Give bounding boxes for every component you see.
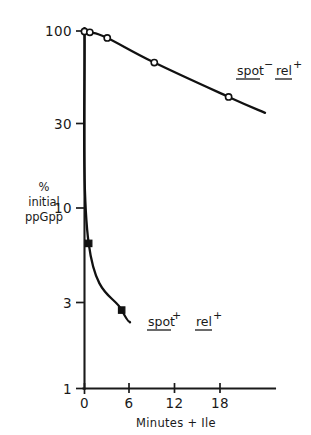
- data-point-open: [87, 29, 93, 35]
- curve-spot-plus-rel-plus: [84, 32, 130, 323]
- data-point-open: [226, 94, 232, 100]
- x-tick-label-12: 12: [166, 395, 184, 411]
- x-tick-label-0: 0: [80, 395, 89, 411]
- annotation-upper-sup2: +: [293, 58, 302, 71]
- annotation-lower-gene2: rel: [196, 314, 212, 329]
- data-point-open: [151, 59, 157, 65]
- data-point-open: [104, 35, 110, 41]
- x-tick-label-6: 6: [125, 395, 134, 411]
- x-axis-title: Minutes + Ile: [136, 416, 216, 430]
- y-axis-label-line3: ppGpp: [25, 210, 63, 224]
- data-point-filled: [118, 307, 124, 313]
- annotation-upper-gene1: spot: [237, 63, 264, 78]
- ppgpp-decay-chart: 100 30 10 3 1 0 6 12 18 Minutes + Ile % …: [0, 0, 311, 435]
- y-axis-label-line2: initial: [28, 195, 60, 209]
- annotation-upper-gene2: rel: [276, 63, 292, 78]
- y-tick-label-3: 3: [63, 295, 72, 311]
- axis-group: [84, 28, 276, 389]
- y-tick-label-100: 100: [45, 23, 72, 39]
- annotation-upper: spot − rel +: [236, 58, 302, 79]
- annotation-lower: spot + rel +: [147, 309, 222, 330]
- markers-spot-plus-rel-plus: [85, 240, 124, 313]
- annotation-lower-sup1: +: [172, 309, 181, 322]
- annotation-upper-sup1: −: [264, 58, 273, 71]
- annotation-lower-sup2: +: [213, 309, 222, 322]
- y-tick-label-1: 1: [63, 381, 72, 397]
- x-tick-label-18: 18: [211, 395, 229, 411]
- y-tick-label-30: 30: [54, 116, 72, 132]
- chart-canvas: 100 30 10 3 1 0 6 12 18 Minutes + Ile % …: [0, 0, 311, 435]
- data-point-filled: [85, 240, 91, 246]
- y-axis-label-line1: %: [39, 180, 50, 194]
